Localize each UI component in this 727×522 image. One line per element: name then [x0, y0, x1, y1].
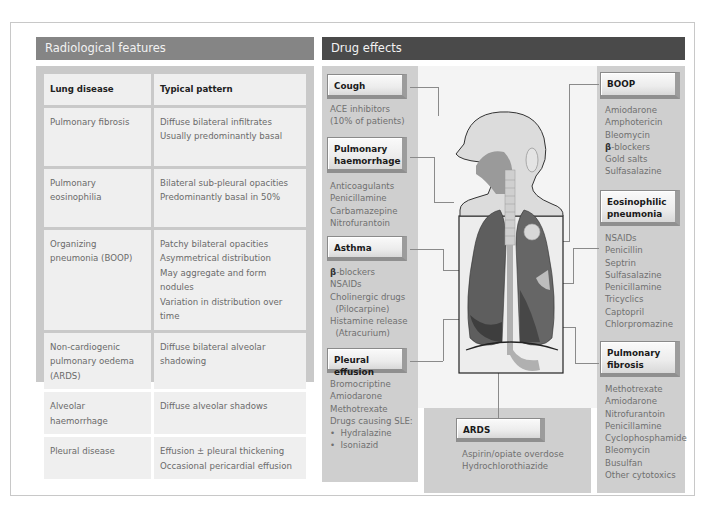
fibrosis-drug-list: Methotrexate Amiodarone Nitrofurantoin P…: [605, 383, 687, 481]
radiological-table-container: Lung disease Typical pattern Pulmonary f…: [36, 66, 314, 382]
connector-line: [434, 157, 435, 202]
pattern-cell: Diffuse alveolar shadows: [154, 392, 306, 434]
cough-label: Cough: [327, 74, 407, 99]
table-row: Alveolar haemorrhage Diffuse alveolar sh…: [44, 392, 306, 434]
pattern-line: Patchy bilateral opacities: [160, 237, 300, 252]
ards-drug-list: Aspirin/opiate overdose Hydrochlorothiaz…: [462, 448, 564, 473]
pattern-line: Bilateral sub-pleural opacities: [160, 176, 300, 191]
boop-label: BOOP: [600, 72, 680, 99]
trachea: [505, 170, 515, 245]
disease-cell: Non-cardiogenic pulmonary oedema (ARDS): [44, 333, 151, 390]
pattern-line: Diffuse bilateral alveolar: [160, 340, 300, 355]
cough-drug-list: ACE inhibitors (10% of patients): [330, 103, 405, 128]
pleural-effusion-drug-list: Bromocriptine Amiodarone Methotrexate Dr…: [330, 378, 413, 452]
pattern-line: Asymmetrical distribution: [160, 251, 300, 266]
disease-cell: Pleural disease: [44, 437, 151, 479]
pattern-cell: Effusion ± pleural thickening Occasional…: [154, 437, 306, 479]
radiological-features-header: Radiological features: [36, 37, 314, 60]
eosinophilic-drug-list: NSAIDs Penicillin Septrin Sulfasalazine …: [605, 232, 673, 330]
connector-line: [569, 84, 599, 85]
header-typical-pattern: Typical pattern: [154, 74, 306, 105]
table-row: Non-cardiogenic pulmonary oedema (ARDS) …: [44, 333, 306, 390]
pattern-cell: Diffuse bilateral infiltrates Usually pr…: [154, 108, 306, 166]
pulmonary-haemorrhage-label: Pulmonary haemorrhage: [327, 137, 407, 173]
disease-cell: Pulmonary eosinophilia: [44, 169, 151, 227]
pattern-cell: Diffuse bilateral alveolar shadowing: [154, 333, 306, 390]
pattern-line: shadowing: [160, 354, 300, 369]
radiological-table: Lung disease Typical pattern Pulmonary f…: [41, 71, 309, 482]
pulmonary-fibrosis-label: Pulmonary fibrosis: [600, 341, 680, 377]
table-header-row: Lung disease Typical pattern: [44, 74, 306, 105]
connector-line: [410, 361, 443, 362]
boop-beta-item: -blockers: [611, 142, 650, 152]
asthma-drug-list: β-blockers NSAIDs Cholinergic drugs (Pil…: [330, 266, 408, 340]
eosinophilic-pneumonia-label: Eosinophilic pneumonia: [600, 190, 680, 226]
connector-line: [410, 157, 434, 158]
disease-cell: Alveolar haemorrhage: [44, 392, 151, 434]
human-torso-illustration: [440, 110, 580, 410]
connector-line: [438, 87, 439, 116]
asthma-label: Asthma: [327, 236, 407, 261]
pattern-line: Effusion ± pleural thickening: [160, 444, 300, 459]
ards-label: ARDS: [456, 418, 545, 442]
table-row: Pulmonary fibrosis Diffuse bilateral inf…: [44, 108, 306, 166]
pattern-line: Predominantly basal in 50%: [160, 190, 300, 205]
boop-drug-list: Amiodarone Amphotericin Bleomycin β-bloc…: [605, 104, 663, 178]
pattern-line: Diffuse bilateral infiltrates: [160, 115, 300, 130]
pleural-effusion-label: Pleural effusion: [327, 348, 407, 373]
pattern-cell: Bilateral sub-pleural opacities Predomin…: [154, 169, 306, 227]
table-row: Pulmonary eosinophilia Bilateral sub-ple…: [44, 169, 306, 227]
pattern-line: Occasional pericardial effusion: [160, 459, 300, 474]
connector-line: [410, 249, 443, 250]
drug-effects-header: Drug effects: [322, 37, 685, 60]
pattern-line: Diffuse alveolar shadows: [160, 399, 300, 414]
haemorrhage-drug-list: Anticoagulants Penicillamine Carbamazepi…: [330, 180, 398, 229]
pattern-line: Variation in distribution over time: [160, 295, 300, 324]
header-lung-disease: Lung disease: [44, 74, 151, 105]
asthma-items: NSAIDs Cholinergic drugs (Pilocarpine) H…: [330, 279, 408, 338]
connector-line: [410, 87, 439, 88]
boop-items-a: Amiodarone Amphotericin Bleomycin: [605, 105, 663, 140]
disease-cell: Organizing pneumonia (BOOP): [44, 230, 151, 330]
table-row: Organizing pneumonia (BOOP) Patchy bilat…: [44, 230, 306, 330]
pattern-line: Usually predominantly basal: [160, 129, 300, 144]
disease-cell: Pulmonary fibrosis: [44, 108, 151, 166]
pattern-line: May aggregate and form nodules: [160, 266, 300, 295]
pattern-cell: Patchy bilateral opacities Asymmetrical …: [154, 230, 306, 330]
asthma-first-item: -blockers: [336, 267, 375, 277]
boop-items-b: Gold salts Sulfasalazine: [605, 154, 662, 176]
table-row: Pleural disease Effusion ± pleural thick…: [44, 437, 306, 479]
